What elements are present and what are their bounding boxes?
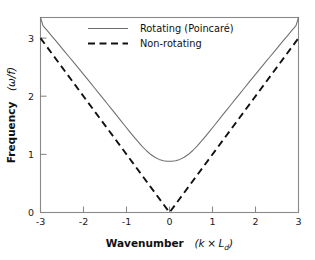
y-tick-label: 2: [28, 91, 34, 102]
x-axis-title-var-k: k: [199, 237, 206, 249]
x-tick-label: -2: [79, 216, 88, 227]
svg-text:Frequency (ω/f): Frequency (ω/f): [5, 67, 17, 163]
y-axis-ticks: [41, 38, 47, 212]
chart-legend: Rotating (Poincaré) Non-rotating: [88, 23, 234, 49]
x-tick-label: -1: [122, 216, 131, 227]
x-tick-label: 2: [252, 216, 258, 227]
y-tick-label: 3: [28, 33, 34, 44]
y-tick-labels: 0 1 2 3: [28, 33, 34, 218]
y-axis-title: Frequency (ω/f): [5, 67, 17, 163]
dispersion-relation-chart: -3 -2 -1 0 1 2 3 0 1 2 3 Rotating (Poinc…: [0, 0, 315, 260]
y-tick-label: 0: [28, 207, 34, 218]
x-axis-title-times: ×: [207, 237, 216, 249]
x-axis-ticks: [41, 207, 299, 213]
x-axis-title-close: ): [228, 237, 233, 249]
series-nonrotating-line: [41, 38, 299, 212]
x-tick-labels: -3 -2 -1 0 1 2 3: [36, 216, 302, 227]
y-axis-title-close: ): [5, 67, 17, 72]
x-axis-title-word: Wavenumber: [106, 237, 185, 249]
legend-label-nonrotating: Non-rotating: [140, 38, 202, 49]
y-tick-label: 1: [28, 149, 34, 160]
chart-figure: -3 -2 -1 0 1 2 3 0 1 2 3 Rotating (Poinc…: [0, 0, 315, 260]
x-tick-label: 3: [295, 216, 301, 227]
y-axis-title-word: Frequency: [5, 102, 17, 164]
x-tick-label: -3: [36, 216, 45, 227]
x-tick-label: 0: [166, 216, 172, 227]
legend-label-rotating: Rotating (Poincaré): [140, 23, 234, 34]
x-axis-title: Wavenumber (k×Ld): [106, 237, 233, 252]
y-axis-title-var-omega: ω: [5, 78, 17, 87]
x-tick-label: 1: [209, 216, 215, 227]
svg-text:Wavenumber (k×Ld): Wavenumber (k×Ld): [106, 237, 233, 252]
